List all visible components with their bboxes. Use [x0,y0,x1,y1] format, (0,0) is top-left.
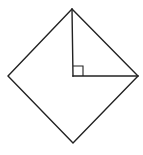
background [0,0,143,155]
half-diagonal-vertical [72,9,73,76]
rotated-square-diagram [0,0,143,155]
